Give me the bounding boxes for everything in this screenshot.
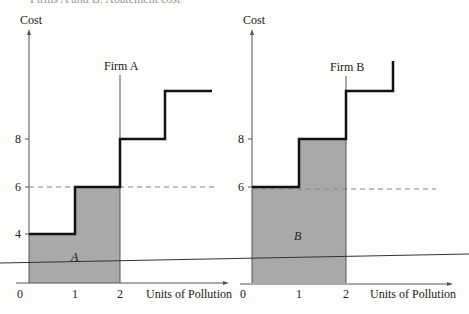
area-label-b: B xyxy=(294,230,301,242)
area-label-a: A xyxy=(71,251,78,263)
x-tick-2-left: 2 xyxy=(117,288,123,300)
y-axis-label-right: Cost xyxy=(243,14,265,26)
x-axis-arrow-right xyxy=(447,282,453,286)
firm-a-label: Firm A xyxy=(104,60,138,72)
y-tick-6-right: 6 xyxy=(238,181,244,193)
chart-canvas xyxy=(0,0,469,314)
x-tick-1-right: 1 xyxy=(296,288,302,300)
y-tick-8-right: 8 xyxy=(238,133,244,145)
y-axis-arrow-left xyxy=(27,29,31,35)
x-axis-label-right: Units of Pollution xyxy=(370,288,456,300)
y-axis-arrow-right xyxy=(250,29,254,35)
x-tick-1-left: 1 xyxy=(72,288,78,300)
x-tick-0-left: 0 xyxy=(17,288,23,300)
y-axis-label-left: Cost xyxy=(20,14,42,26)
x-axis-arrow-left xyxy=(223,281,229,285)
x-tick-0-right: 0 xyxy=(240,288,246,300)
y-tick-8-left: 8 xyxy=(15,133,21,145)
y-tick-6-left: 6 xyxy=(15,181,21,193)
y-tick-4-left: 4 xyxy=(15,228,21,240)
firm-b-label: Firm B xyxy=(330,61,364,73)
x-axis-label-left: Units of Pollution xyxy=(146,288,232,300)
x-tick-2-right: 2 xyxy=(343,288,349,300)
